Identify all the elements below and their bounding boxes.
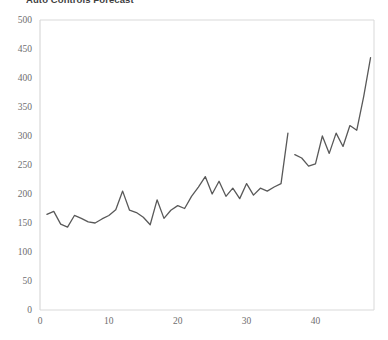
y-axis-tick-label: 500 [2,15,32,25]
data-series-group [47,58,371,227]
y-axis-tick-label: 300 [2,131,32,141]
x-axis-tick-label: 20 [163,316,193,326]
data-series-line [295,58,371,166]
y-axis-tick-label: 450 [2,44,32,54]
y-axis-tick-label: 400 [2,73,32,83]
data-series-line [47,133,288,227]
y-axis-tick-label: 100 [2,247,32,257]
y-axis-tick-label: 250 [2,160,32,170]
x-axis-tick-label: 30 [232,316,262,326]
y-axis-tick-label: 150 [2,218,32,228]
y-axis-tick-label: 0 [2,305,32,315]
x-axis-tick-label: 10 [94,316,124,326]
x-axis-tick-label: 0 [25,316,55,326]
plot-border-group [40,20,374,310]
y-axis-tick-label: 50 [2,276,32,286]
chart-plot-area [0,0,388,340]
y-axis-tick-label: 350 [2,102,32,112]
x-axis-tick-label: 40 [300,316,330,326]
y-axis-tick-label: 200 [2,189,32,199]
chart-container: Auto Controls Forecast 05010015020025030… [0,0,388,340]
